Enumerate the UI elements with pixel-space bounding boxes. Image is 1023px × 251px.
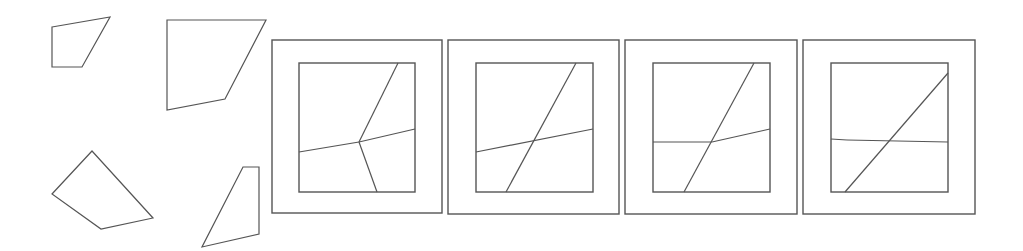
cut-line — [359, 63, 398, 142]
inner-square — [653, 63, 770, 192]
piece-bottom-left — [52, 151, 153, 229]
outer-frame — [625, 40, 797, 214]
cut-line — [476, 129, 593, 152]
cut-line — [359, 129, 415, 142]
cut-line — [712, 129, 770, 142]
cut-line — [299, 142, 359, 152]
quadrilateral-pieces — [52, 17, 266, 247]
square-panels — [272, 40, 975, 214]
piece-bottom-right — [202, 167, 259, 247]
cut-line — [506, 63, 576, 192]
inner-square — [299, 63, 415, 192]
outer-frame — [272, 40, 442, 213]
diagram-svg — [0, 0, 1023, 251]
panel-3 — [625, 40, 797, 214]
cut-line — [359, 142, 377, 192]
panel-4 — [803, 40, 975, 214]
panel-1 — [272, 40, 442, 213]
inner-square — [831, 63, 948, 192]
outer-frame — [803, 40, 975, 214]
panel-2 — [448, 40, 619, 214]
piece-top-right — [167, 20, 266, 110]
inner-square — [476, 63, 593, 192]
cut-line — [847, 140, 948, 142]
cut-line — [684, 63, 754, 192]
cut-line — [845, 73, 948, 192]
cut-line — [831, 139, 847, 140]
diagram-canvas — [0, 0, 1023, 251]
piece-top-left — [52, 17, 110, 67]
